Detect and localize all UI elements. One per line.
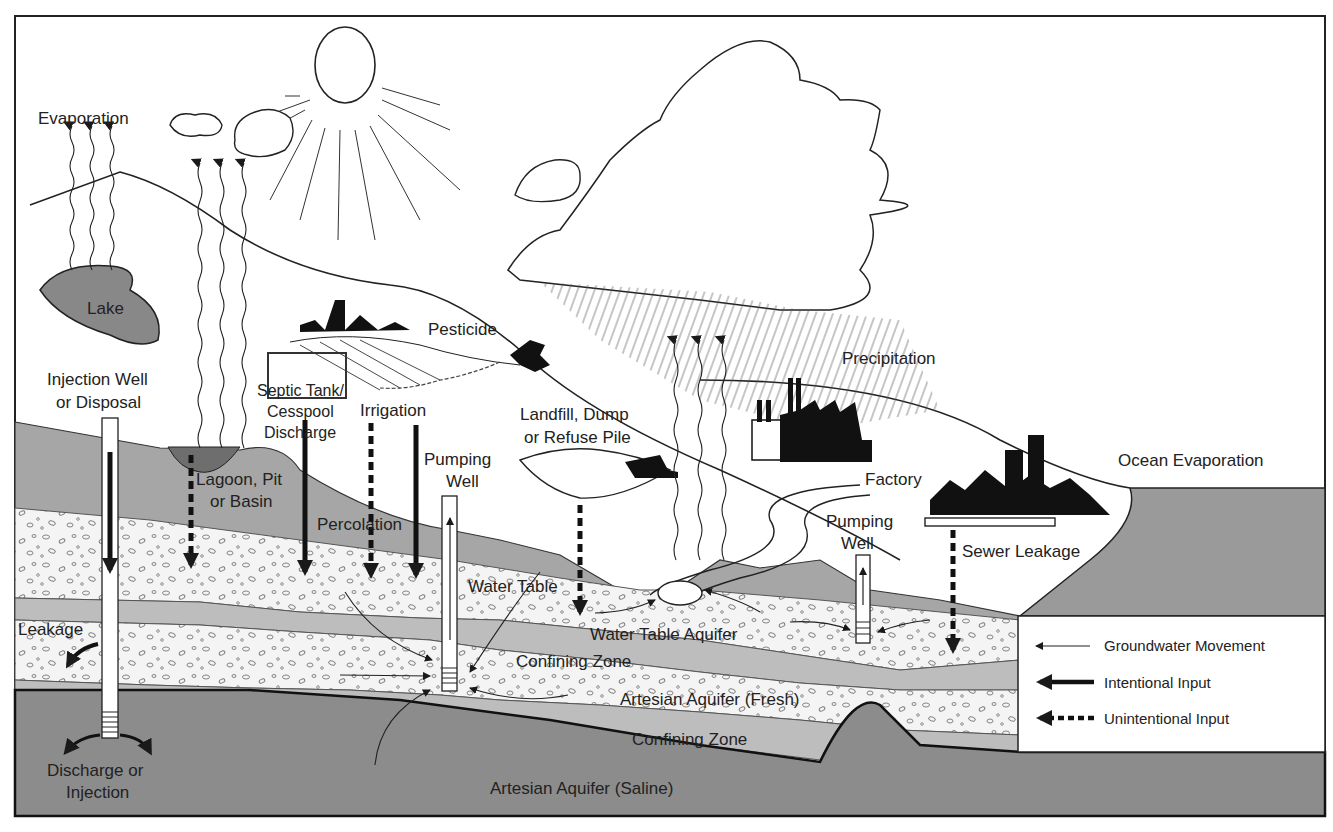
label-confining-zone-upper: Confining Zone <box>516 652 631 671</box>
label-pumping-well-right-2: Well <box>841 534 874 553</box>
label-injection-well-1: Injection Well <box>47 370 148 389</box>
cloud-small-left <box>170 114 222 137</box>
label-landfill-1: Landfill, Dump <box>520 405 629 424</box>
label-landfill-2: or Refuse Pile <box>524 428 631 447</box>
label-pumping-well-left-1: Pumping <box>424 450 491 469</box>
label-sewer-leakage: Sewer Leakage <box>962 542 1080 561</box>
label-discharge-2: Injection <box>66 783 129 802</box>
label-septic-1: Septic Tank/ <box>257 382 344 399</box>
label-percolation: Percolation <box>317 515 402 534</box>
label-water-table: Water Table <box>468 577 558 596</box>
label-septic-3: Discharge <box>264 424 336 441</box>
label-factory: Factory <box>865 470 922 489</box>
label-pumping-well-right-1: Pumping <box>826 512 893 531</box>
label-irrigation: Irrigation <box>360 401 426 420</box>
label-pumping-well-left-2: Well <box>446 472 479 491</box>
groundwater-diagram: Evaporation Lake Pesticide Precipitation… <box>0 0 1333 832</box>
label-artesian-fresh: Artesian Aquifer (Fresh) <box>620 690 800 709</box>
label-pesticide: Pesticide <box>428 320 497 339</box>
label-confining-zone-lower: Confining Zone <box>632 730 747 749</box>
label-evaporation: Evaporation <box>38 109 129 128</box>
label-artesian-saline: Artesian Aquifer (Saline) <box>490 779 673 798</box>
legend: Groundwater Movement Intentional Input U… <box>1018 616 1325 752</box>
legend-label-unintentional-input: Unintentional Input <box>1104 710 1230 727</box>
label-leakage: Leakage <box>18 620 83 639</box>
label-lagoon-2: or Basin <box>210 492 272 511</box>
legend-label-groundwater-movement: Groundwater Movement <box>1104 637 1266 654</box>
label-ocean-evaporation: Ocean Evaporation <box>1118 451 1264 470</box>
label-septic-2: Cesspool <box>267 403 334 420</box>
label-precipitation: Precipitation <box>842 349 936 368</box>
label-water-table-aquifer: Water Table Aquifer <box>590 625 738 644</box>
label-discharge-1: Discharge or <box>47 761 144 780</box>
label-injection-well-2: or Disposal <box>56 393 141 412</box>
legend-label-intentional-input: Intentional Input <box>1104 674 1212 691</box>
label-lake: Lake <box>87 299 124 318</box>
label-lagoon-1: Lagoon, Pit <box>196 470 282 489</box>
river-pool <box>658 581 702 605</box>
